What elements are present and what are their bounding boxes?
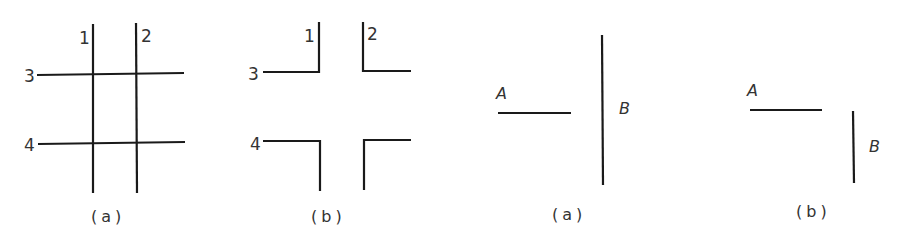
label-3: 3 bbox=[24, 66, 35, 86]
segment-b bbox=[602, 35, 603, 185]
diagram-canvas: 1 2 3 4 (a) 1 2 3 4 (b) A B (a) A B (b) bbox=[0, 0, 897, 245]
label-a: A bbox=[746, 81, 758, 100]
caption-1b: (b) bbox=[311, 207, 346, 226]
label-1: 1 bbox=[304, 26, 315, 46]
figure-2a: A B (a) bbox=[495, 35, 630, 224]
label-a: A bbox=[495, 84, 507, 103]
corner-4-1 bbox=[263, 141, 320, 191]
corner-4-2 bbox=[364, 140, 411, 190]
label-3: 3 bbox=[248, 64, 259, 84]
caption-2b: (b) bbox=[796, 202, 831, 221]
caption-1a: (a) bbox=[91, 207, 125, 226]
label-b: B bbox=[619, 99, 630, 118]
label-2: 2 bbox=[141, 26, 152, 46]
label-4: 4 bbox=[250, 134, 261, 154]
line-3 bbox=[37, 73, 184, 75]
segment-b bbox=[853, 111, 854, 183]
label-2: 2 bbox=[367, 24, 378, 44]
label-b: B bbox=[869, 137, 880, 156]
figure-1a: 1 2 3 4 (a) bbox=[24, 23, 185, 226]
label-4: 4 bbox=[24, 135, 35, 155]
line-4 bbox=[38, 142, 185, 144]
figure-1b: 1 2 3 4 (b) bbox=[248, 22, 411, 226]
line-2 bbox=[136, 23, 137, 193]
figure-2b: A B (b) bbox=[746, 81, 880, 221]
label-1: 1 bbox=[79, 28, 90, 48]
caption-2a: (a) bbox=[552, 205, 586, 224]
